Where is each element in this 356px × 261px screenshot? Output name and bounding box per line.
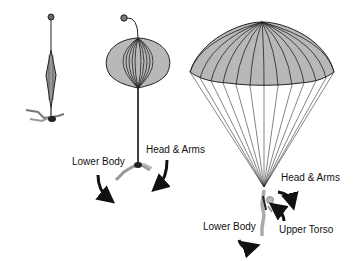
label-stage3-upper-torso: Upper Torso [279, 225, 333, 235]
lower-body-arrow-icon [239, 240, 252, 248]
full-canopy-icon [190, 22, 334, 85]
stage-1-streamer [26, 14, 64, 122]
label-stage3-lower-body: Lower Body [203, 222, 256, 232]
upper-torso-arrow-icon [276, 208, 284, 221]
diagram-graphics [0, 0, 356, 261]
parachute-deployment-diagram: Lower Body Head & Arms Head & Arms Lower… [0, 0, 356, 261]
jumper-icon [262, 190, 274, 236]
head-arms-arrow-icon [278, 192, 292, 202]
jumper-icon [26, 110, 64, 122]
inflating-canopy-icon [106, 38, 170, 88]
label-stage3-head-arms: Head & Arms [281, 173, 340, 183]
pilot-chute-icon [48, 14, 54, 20]
head-arms-arrow-icon [158, 160, 167, 186]
stage-2-inflating [98, 15, 170, 198]
packed-canopy-icon [46, 50, 56, 108]
label-stage2-lower-body: Lower Body [72, 157, 125, 167]
stage-3-inflated [190, 22, 334, 248]
label-stage2-head-arms: Head & Arms [146, 145, 205, 155]
lower-body-arrow-icon [98, 175, 108, 198]
pilot-chute-icon [121, 15, 127, 21]
